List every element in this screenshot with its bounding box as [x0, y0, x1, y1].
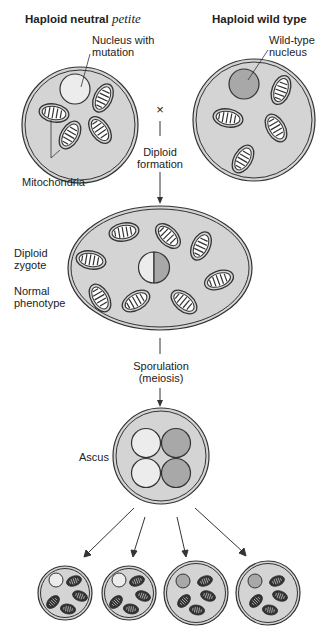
diagram-canvas [0, 0, 327, 631]
label-normal-phenotype: Normalphenotype [14, 285, 65, 309]
haploid-petite-cell [22, 54, 138, 183]
label-diploid-zygote: Diploidzygote [14, 247, 48, 271]
label-diploid-formation: Diploidformation [130, 146, 190, 170]
label-ascus: Ascus [79, 451, 109, 463]
header-haploid-petite: Haploid neutral petite [25, 13, 141, 25]
diploid-zygote-cell [68, 206, 252, 330]
spore-wildtype-2 [236, 561, 300, 625]
cross-symbol: × [153, 104, 167, 116]
haploid-wildtype-cell [193, 50, 315, 181]
label-mitochondria: Mitochondria [22, 176, 85, 188]
ascus-cell [113, 408, 209, 504]
header-haploid-wildtype: Haploid wild type [212, 13, 307, 25]
label-nucleus-with-mutation: Nucleus withmutation [92, 34, 154, 58]
spore-petite-1 [38, 566, 92, 620]
label-wildtype-nucleus: Wild-typenucleus [269, 34, 315, 58]
label-sporulation: Sporulation(meiosis) [120, 360, 202, 384]
spore-wildtype-1 [164, 561, 228, 625]
spore-petite-2 [102, 566, 156, 620]
